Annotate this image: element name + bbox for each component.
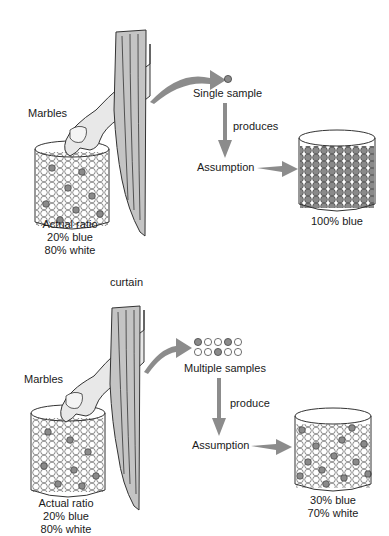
single-sample-marble [224, 75, 231, 82]
top-panel [35, 30, 375, 236]
caption-line: 20% blue [40, 231, 100, 244]
produces-label: produces [233, 120, 278, 133]
caption-line: Actual ratio [36, 497, 96, 510]
result-caption-bottom: 30% blue 70% white [303, 494, 363, 520]
single-sample-label: Single sample [193, 87, 262, 100]
curtain-label: curtain [110, 276, 143, 289]
caption-line: 30% blue [303, 494, 363, 507]
actual-ratio-caption-bottom: Actual ratio 20% blue 80% white [36, 497, 96, 536]
marbles-label-top: Marbles [28, 107, 67, 120]
right-arrow-bottom [251, 439, 292, 455]
caption-line: Actual ratio [40, 218, 100, 231]
curtain-bottom [110, 306, 140, 510]
marbles-label-bottom: Marbles [24, 373, 63, 386]
down-arrow-top [218, 103, 232, 158]
multiple-samples-grid [194, 338, 241, 355]
caption-line: 100% blue [307, 215, 367, 228]
caption-line: 20% blue [36, 510, 96, 523]
result-jar-bottom [295, 408, 371, 491]
result-jar-top [299, 130, 375, 211]
caption-line: 80% white [36, 523, 96, 536]
multiple-samples-label: Multiple samples [184, 362, 266, 375]
result-caption-top: 100% blue [307, 215, 367, 228]
caption-line: 80% white [40, 244, 100, 257]
right-arrow-top [257, 161, 298, 177]
actual-ratio-caption-top: Actual ratio 20% blue 80% white [40, 218, 100, 257]
caption-line: 70% white [303, 507, 363, 520]
assumption-label-bottom: Assumption [192, 439, 249, 452]
bottom-panel [31, 306, 371, 510]
down-arrow-bottom [212, 378, 226, 436]
assumption-label-top: Assumption [197, 161, 254, 174]
curtain-top [114, 30, 146, 236]
produce-label: produce [230, 397, 270, 410]
